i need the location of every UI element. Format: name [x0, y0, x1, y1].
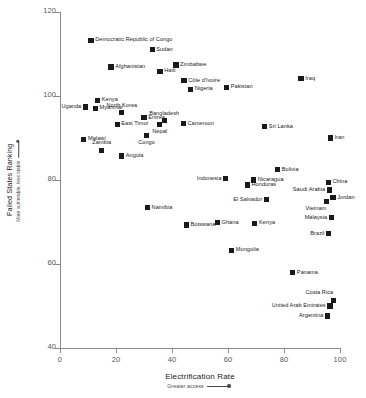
data-point-label: Kenya: [259, 220, 275, 226]
data-point-marker: [325, 313, 330, 318]
data-point-marker: [150, 47, 155, 52]
x-axis-tick-label: 20: [112, 355, 121, 364]
data-point-marker: [83, 104, 88, 109]
data-point-marker: [144, 133, 149, 138]
data-point-label: Haiti: [164, 68, 175, 74]
data-point-marker: [330, 195, 335, 200]
x-axis-tick-mark: [116, 348, 117, 353]
data-point-marker: [181, 78, 186, 83]
x-axis-tick-label: 60: [224, 355, 233, 364]
data-point-label: Malaysia: [305, 215, 327, 221]
data-point-label: Zimbabwe: [180, 62, 206, 68]
data-point-marker: [327, 187, 332, 192]
x-axis-tick-label: 0: [58, 355, 62, 364]
data-point-label: Uganda: [61, 104, 81, 110]
data-point-label: United Arab Emirates: [272, 303, 326, 309]
y-axis-tick-label: 100: [43, 90, 56, 99]
data-point-marker: [115, 122, 120, 127]
x-axis-tick-mark: [284, 348, 285, 353]
data-point-label: Afghanistan: [115, 64, 145, 70]
data-point-label: Mongolia: [236, 247, 259, 253]
data-point-marker: [215, 220, 220, 225]
data-point-marker: [93, 106, 98, 111]
y-axis-tick-label: 60: [47, 258, 56, 267]
data-point-marker: [188, 87, 193, 92]
data-point-label: Ghana: [222, 220, 239, 226]
data-point-label: Saudi Arabia: [293, 187, 325, 193]
x-axis-tick-mark: [228, 348, 229, 353]
data-point-label: Namibia: [152, 205, 173, 211]
data-point-label: Honduras: [252, 182, 277, 188]
data-point-label: Jordan: [337, 195, 354, 201]
data-point-marker: [224, 85, 229, 90]
y-axis-subtitle-text: More vulnerable, less stable: [16, 161, 21, 222]
data-point-marker: [181, 121, 186, 126]
data-point-marker: [229, 248, 234, 253]
data-point-label: Nepal: [152, 129, 167, 135]
x-axis-tick-label: 40: [168, 355, 177, 364]
data-point-label: El Salvador: [233, 197, 262, 203]
arrow-right-icon: [207, 384, 233, 388]
scatter-chart-figure: 406080100120 020406080100 Democratic Rep…: [0, 0, 366, 398]
data-point-label: Bangladesh: [149, 111, 179, 117]
data-point-marker: [95, 98, 100, 103]
data-point-marker: [99, 148, 104, 153]
data-point-marker: [327, 303, 332, 308]
data-point-label: North Korea: [107, 103, 138, 109]
y-axis-tick-label: 80: [47, 174, 56, 183]
data-point-label: Iran: [335, 135, 345, 141]
data-point-marker: [329, 215, 334, 220]
data-point-label: Panama: [297, 270, 318, 276]
y-axis-tick-label: 40: [47, 342, 56, 351]
data-point-marker: [298, 76, 303, 81]
data-point-marker: [184, 222, 189, 227]
data-point-marker: [108, 64, 113, 69]
data-point-marker: [245, 182, 250, 187]
plot-area: 406080100120 020406080100 Democratic Rep…: [60, 12, 340, 348]
data-point-label: Argentina: [299, 313, 323, 319]
data-point-label: Iraq: [305, 76, 315, 82]
y-axis-tick-label: 120: [43, 6, 56, 15]
data-point-label: Angola: [126, 153, 144, 159]
x-axis-line: [60, 348, 340, 349]
data-point-marker: [119, 110, 124, 115]
data-point-label: Indonesia: [197, 176, 222, 182]
data-point-marker: [141, 115, 146, 120]
data-point-label: Pakistan: [231, 84, 253, 90]
data-point-label: Botswana: [190, 222, 215, 228]
data-point-label: East Timor: [121, 121, 148, 127]
data-point-label: Zambia: [92, 140, 111, 146]
data-point-label: Bolivia: [282, 167, 299, 173]
data-point-marker: [326, 231, 331, 236]
data-point-marker: [223, 176, 228, 181]
y-axis-title-block: Failed States Ranking More vulnerable, l…: [5, 90, 21, 270]
data-point-marker: [331, 298, 336, 303]
data-point-label: Vietnam: [305, 206, 326, 212]
y-axis-subtitle: More vulnerable, less stable: [16, 90, 21, 270]
x-axis-tick-mark: [172, 348, 173, 353]
x-axis-title-block: Electrification Rate Greater access: [60, 372, 340, 389]
x-axis-tick-mark: [340, 348, 341, 353]
x-axis-title: Electrification Rate: [60, 372, 340, 381]
data-point-label: Brazil: [310, 231, 324, 237]
data-point-marker: [252, 221, 257, 226]
data-point-label: Costa Rica: [305, 290, 333, 296]
y-axis-title: Failed States Ranking: [5, 90, 14, 270]
x-axis-tick-mark: [60, 348, 61, 353]
data-point-marker: [145, 205, 150, 210]
y-axis-line: [60, 12, 61, 348]
data-point-marker: [324, 199, 329, 204]
data-point-label: Côte d'Ivoire: [188, 78, 220, 84]
data-point-label: Congo: [138, 140, 155, 146]
data-point-marker: [162, 118, 167, 123]
x-axis-tick-label: 100: [334, 355, 347, 364]
data-point-marker: [81, 137, 86, 142]
data-point-marker: [290, 270, 295, 275]
x-axis-tick-label: 80: [280, 355, 289, 364]
data-point-label: China: [332, 179, 347, 185]
data-point-marker: [262, 124, 267, 129]
data-point-label: Democratic Republic of Congo: [95, 37, 172, 43]
data-point-marker: [326, 180, 331, 185]
data-point-marker: [119, 153, 124, 158]
data-point-marker: [328, 135, 333, 140]
